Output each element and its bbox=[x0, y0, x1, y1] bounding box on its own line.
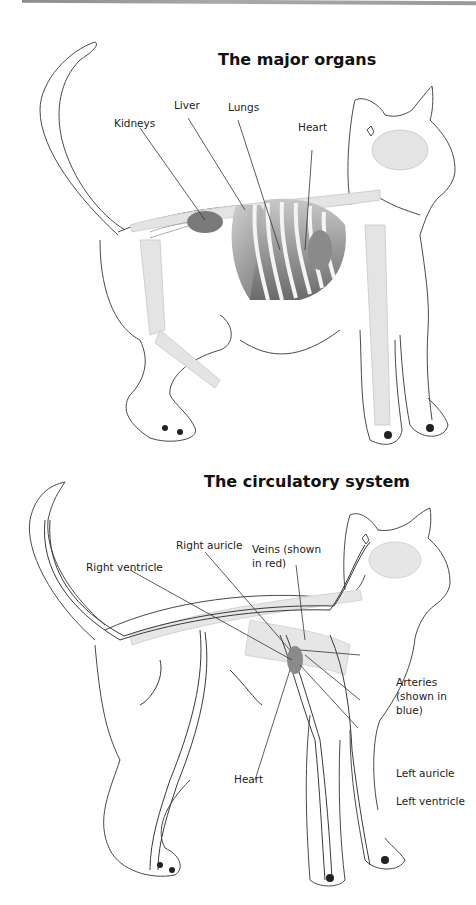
circulatory-title: The circulatory system bbox=[204, 472, 410, 491]
label-arteries: Arteries (shown in blue) bbox=[396, 675, 460, 717]
label-heart: Heart bbox=[298, 120, 327, 134]
label-left-auricle: Left auricle bbox=[396, 766, 455, 780]
paw-pads bbox=[162, 424, 434, 439]
ear-detail-icon bbox=[367, 126, 374, 136]
label-right-ventricle: Right ventricle bbox=[86, 560, 163, 574]
heart-organ bbox=[308, 230, 332, 270]
blood-vessels bbox=[44, 520, 370, 880]
paw-pads bbox=[157, 856, 389, 882]
label-left-ventricle: Left ventricle bbox=[396, 794, 465, 808]
label-heart: Heart bbox=[234, 772, 263, 786]
label-veins: Veins (shown in red) bbox=[252, 542, 322, 570]
ear-detail-icon bbox=[362, 534, 369, 544]
label-lungs: Lungs bbox=[228, 100, 259, 114]
label-liver: Liver bbox=[174, 98, 200, 112]
collar-line bbox=[375, 195, 420, 215]
circulatory-diagram: The circulatory system Right auricle Vei… bbox=[0, 460, 476, 905]
organs-diagram: The major organs Kidneys Liver Lungs Hea… bbox=[0, 0, 476, 450]
kidney-organ bbox=[187, 211, 223, 233]
label-right-auricle: Right auricle bbox=[176, 538, 242, 552]
label-kidneys: Kidneys bbox=[114, 116, 155, 130]
organs-title: The major organs bbox=[218, 50, 376, 69]
